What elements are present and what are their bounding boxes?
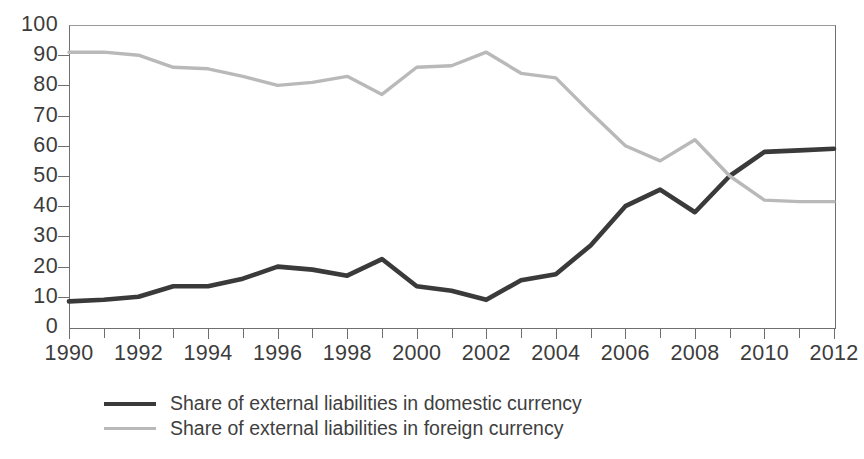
x-axis-tick-mark xyxy=(417,328,418,339)
x-axis-tick-mark xyxy=(799,328,800,338)
x-axis-tick-mark xyxy=(730,328,731,338)
legend-label-domestic: Share of external liabilities in domesti… xyxy=(170,394,582,414)
x-axis-tick-label: 1996 xyxy=(253,343,302,365)
x-axis-tick-label: 1990 xyxy=(44,343,93,365)
y-axis-tick-mark xyxy=(58,236,69,237)
y-axis-tick-mark xyxy=(58,176,69,177)
y-axis-tick-label: 10 xyxy=(2,286,58,308)
y-axis-tick-label: 90 xyxy=(2,44,58,66)
x-axis-tick-mark xyxy=(139,328,140,339)
x-axis-tick-mark xyxy=(69,328,70,339)
x-axis-tick-mark xyxy=(591,328,592,338)
x-axis-tick-label: 2010 xyxy=(740,343,789,365)
x-axis-tick-mark xyxy=(521,328,522,338)
legend-label-foreign: Share of external liabilities in foreign… xyxy=(170,419,563,439)
legend-line-swatch-domestic-icon xyxy=(104,402,156,406)
line-chart: 0102030405060708090100 19901992199419961… xyxy=(0,0,864,459)
x-axis-tick-mark xyxy=(278,328,279,339)
x-axis-tick-label: 1994 xyxy=(184,343,233,365)
x-axis-tick-mark xyxy=(556,328,557,339)
x-axis-tick-mark xyxy=(243,328,244,338)
x-axis-tick-label: 2000 xyxy=(392,343,441,365)
x-axis-tick-mark xyxy=(660,328,661,338)
plot-svg xyxy=(69,25,834,327)
y-axis-labels: 0102030405060708090100 xyxy=(0,0,58,459)
x-axis-tick-mark xyxy=(834,328,835,339)
x-axis-tick-label: 2006 xyxy=(601,343,650,365)
y-axis-tick-label: 80 xyxy=(2,75,58,97)
y-axis-tick-mark xyxy=(58,55,69,56)
x-axis-labels: 1990199219941996199820002002200420062008… xyxy=(0,343,864,377)
y-axis-tick-label: 50 xyxy=(2,165,58,187)
y-axis-tick-label: 0 xyxy=(2,316,58,338)
y-axis-tick-mark xyxy=(58,146,69,147)
x-axis-tick-label: 2012 xyxy=(809,343,858,365)
y-axis-tick-mark xyxy=(58,206,69,207)
series-line xyxy=(69,149,834,302)
x-axis-tick-label: 1992 xyxy=(114,343,163,365)
x-axis-tick-label: 2008 xyxy=(670,343,719,365)
x-axis-tick-mark xyxy=(625,328,626,339)
y-axis-tick-mark xyxy=(58,297,69,298)
x-axis-ticks xyxy=(69,328,839,340)
x-axis-tick-mark xyxy=(695,328,696,339)
x-axis-tick-mark xyxy=(347,328,348,339)
x-axis-tick-mark xyxy=(452,328,453,338)
x-axis-tick-label: 1998 xyxy=(323,343,372,365)
y-axis-tick-label: 30 xyxy=(2,226,58,248)
y-axis-tick-label: 20 xyxy=(2,256,58,278)
x-axis-tick-mark xyxy=(382,328,383,338)
legend-item-domestic: Share of external liabilities in domesti… xyxy=(104,391,804,416)
x-axis-tick-mark xyxy=(208,328,209,339)
y-axis-tick-label: 60 xyxy=(2,135,58,157)
y-axis-tick-label: 100 xyxy=(2,14,58,36)
x-axis-tick-label: 2004 xyxy=(531,343,580,365)
series-layer xyxy=(69,52,834,301)
y-axis-tick-label: 40 xyxy=(2,195,58,217)
x-axis-tick-mark xyxy=(312,328,313,338)
x-axis-tick-label: 2002 xyxy=(462,343,511,365)
legend-line-swatch-foreign-icon xyxy=(104,427,156,430)
x-axis-tick-mark xyxy=(104,328,105,338)
y-axis-tick-mark xyxy=(58,85,69,86)
chart-legend: Share of external liabilities in domesti… xyxy=(104,391,804,441)
series-line xyxy=(69,52,834,201)
x-axis-tick-mark xyxy=(764,328,765,339)
y-axis-tick-mark xyxy=(58,267,69,268)
x-axis-tick-mark xyxy=(173,328,174,338)
legend-item-foreign: Share of external liabilities in foreign… xyxy=(104,416,804,441)
y-axis-tick-mark xyxy=(58,116,69,117)
x-axis-tick-mark xyxy=(486,328,487,339)
y-axis-tick-label: 70 xyxy=(2,105,58,127)
